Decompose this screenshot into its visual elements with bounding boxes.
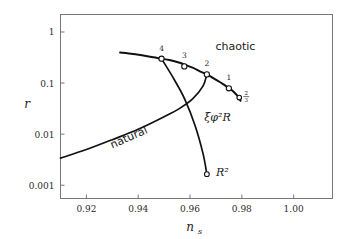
svg-text:s: s xyxy=(198,227,202,236)
x-tick-label: 0.92 xyxy=(76,204,96,214)
chart-figure: 0.920.940.960.981.00 10.10.010.001 43212… xyxy=(0,0,340,239)
chart-canvas: 0.920.940.960.981.00 10.10.010.001 43212… xyxy=(0,0,340,239)
x-tick-label: 0.96 xyxy=(180,204,200,214)
x-axis-ticks: 0.920.940.960.981.00 xyxy=(76,195,304,214)
x-tick-label: 1.00 xyxy=(284,204,304,214)
marker-label-2: 2 xyxy=(204,59,209,68)
marker-fraction xyxy=(237,95,242,100)
x-tick-label: 0.94 xyxy=(128,204,148,214)
marker-fraction-denominator: 3 xyxy=(244,97,248,103)
marker-label-3: 3 xyxy=(182,51,187,60)
annotation-xi-phi-2-r: ξφ²R xyxy=(204,111,230,124)
annotation-r-2: R² xyxy=(215,166,229,179)
marker-label-4: 4 xyxy=(159,44,164,53)
marker-3 xyxy=(182,64,187,69)
curve-natural xyxy=(61,74,207,158)
marker-1 xyxy=(226,86,231,91)
y-tick-label: 1 xyxy=(49,27,55,37)
curve-xi-phi-2-r xyxy=(162,59,207,174)
marker-r-squared xyxy=(204,172,209,177)
marker-2 xyxy=(204,72,209,77)
curve-chaotic xyxy=(120,53,240,101)
marker-label-1: 1 xyxy=(226,73,231,82)
y-axis-label: r xyxy=(24,97,31,111)
y-tick-label: 0.01 xyxy=(34,130,54,140)
svg-text:n: n xyxy=(186,220,194,234)
x-tick-label: 0.98 xyxy=(232,204,252,214)
marker-4 xyxy=(159,56,164,61)
y-tick-label: 0.1 xyxy=(40,79,54,89)
x-axis-label: n s xyxy=(186,220,202,236)
curve-annotations: chaoticnaturalξφ²RR² xyxy=(108,40,255,179)
y-tick-label: 0.001 xyxy=(29,181,55,191)
annotation-natural: natural xyxy=(108,124,149,152)
marker-fraction-numerator: 2 xyxy=(244,90,248,96)
annotation-chaotic: chaotic xyxy=(215,40,255,53)
plot-frame xyxy=(61,15,333,199)
y-axis-ticks: 10.10.010.001 xyxy=(29,27,65,190)
